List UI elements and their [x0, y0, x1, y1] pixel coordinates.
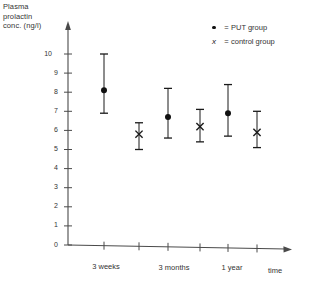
x-axis-arrowhead	[283, 246, 292, 252]
y-axis-tick-label: 8	[44, 88, 58, 95]
marker-dot-icon	[101, 87, 107, 93]
y-axis-tick-label: 7	[44, 107, 58, 114]
y-axis-tick-label: 10	[38, 50, 52, 57]
y-axis-tick-label: 1	[44, 221, 58, 228]
x-axis-category-label: 3 weeks	[76, 262, 136, 271]
data-point-group	[196, 109, 204, 141]
x-axis-category-label: 3 months	[144, 263, 204, 272]
data-point-group	[224, 85, 232, 137]
y-axis-arrowhead	[65, 21, 71, 30]
chart-data-points	[100, 54, 261, 150]
marker-dot-icon	[165, 114, 171, 120]
data-point-group	[253, 111, 261, 147]
y-axis-tick-label: 0	[44, 241, 58, 248]
y-axis-tick-label: 3	[44, 183, 58, 190]
x-axis-line	[68, 245, 286, 249]
data-point-group	[100, 54, 108, 113]
data-point-group	[135, 123, 143, 150]
y-axis-tick-label: 9	[44, 69, 58, 76]
y-axis-tick-label: 2	[44, 202, 58, 209]
y-axis-tick-label: 5	[44, 145, 58, 152]
marker-dot-icon	[225, 110, 231, 116]
y-axis-tick-label: 4	[44, 164, 58, 171]
data-point-group	[164, 88, 172, 138]
y-axis-tick-label: 6	[44, 126, 58, 133]
chart-axes	[65, 21, 292, 253]
x-axis-title: time	[268, 266, 282, 275]
x-axis-category-label: 1 year	[202, 263, 262, 272]
